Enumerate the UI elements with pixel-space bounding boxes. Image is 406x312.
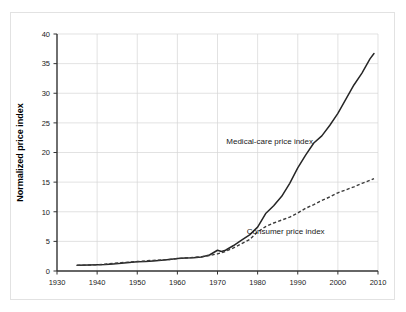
medical-care-price-index-line [77,54,374,266]
series-annotations: Medical-care price indexConsumer price i… [226,137,324,237]
y-tick-label: 30 [42,89,50,98]
y-tick-label: 20 [42,148,50,157]
x-tick-label: 1940 [89,278,106,287]
x-tick-label: 1930 [49,278,66,287]
x-tick-label: 1980 [249,278,266,287]
y-tick-label: 25 [42,119,50,128]
y-axis-title: Normalized price index [15,103,25,202]
consumer-price-index-line [77,179,374,266]
y-tick-label: 40 [42,30,50,39]
chart-figure: 0510152025303540193019401950196019701980… [0,0,406,312]
y-tick-label: 10 [42,208,50,217]
consumer-annotation: Consumer price index [247,227,325,236]
y-tick-label: 0 [46,267,50,276]
gridlines [57,34,378,271]
medical-care-annotation: Medical-care price index [226,137,313,146]
x-axis-ticks: 193019401950196019701980199020002010 [49,271,387,287]
y-tick-label: 35 [42,59,50,68]
price-index-line-chart: 0510152025303540193019401950196019701980… [0,0,406,312]
x-tick-label: 2000 [330,278,347,287]
x-tick-label: 1960 [169,278,186,287]
x-tick-label: 1990 [289,278,306,287]
x-tick-label: 1950 [129,278,146,287]
x-tick-label: 1970 [209,278,226,287]
x-tick-label: 2010 [370,278,387,287]
y-tick-label: 5 [46,237,50,246]
y-tick-label: 15 [42,178,50,187]
data-series [77,54,374,266]
y-axis-ticks: 0510152025303540 [42,30,57,276]
